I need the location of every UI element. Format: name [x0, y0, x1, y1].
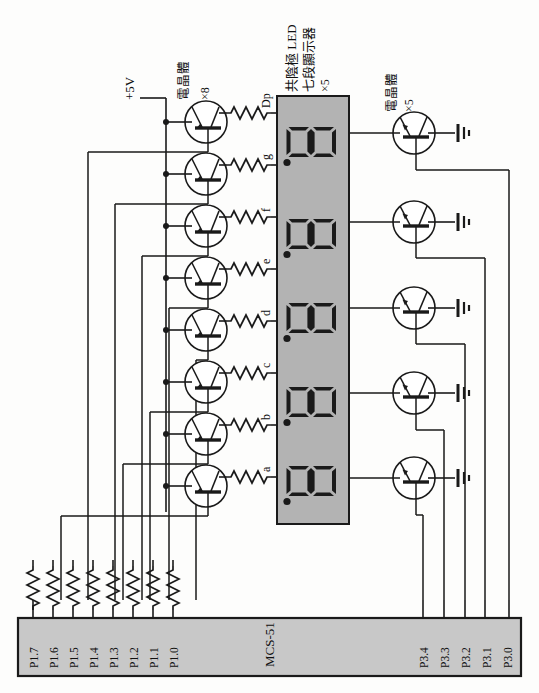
mcu-pin-label: P3.3 — [439, 647, 451, 668]
schematic-canvas: Dp g f e d c b a — [0, 0, 539, 693]
mcu-pin-label: P1.3 — [108, 647, 120, 668]
mcu-pin-label: P3.2 — [460, 647, 472, 668]
mcu-pin-label: P1.1 — [148, 647, 160, 668]
segment-transistor-count-label: ×8 — [198, 87, 212, 100]
circuit-svg: Dp g f e d c b a — [0, 0, 539, 693]
mcu-pin-label: P3.1 — [481, 647, 493, 668]
mcu-pin-label: P1.2 — [128, 647, 140, 668]
segment-pin-labels: Dp g f e d c b a — [259, 93, 273, 472]
port3-routing — [423, 600, 509, 618]
segment-pin-label: g — [259, 154, 273, 160]
digit-driver-stage — [349, 112, 509, 600]
mcu-pin-label: P3.4 — [418, 647, 430, 668]
segment-pin-label: a — [259, 466, 273, 472]
mcu-pin-label: P1.6 — [48, 647, 60, 668]
vcc-label: +5V — [122, 76, 137, 100]
display-label-line2: 七段顯示器 — [301, 27, 316, 92]
display-label-line3: ×5 — [318, 79, 332, 92]
mcu-pin-label: P1.0 — [168, 647, 180, 668]
segment-pin-label: b — [259, 414, 273, 420]
segment-pin-label: d — [259, 310, 273, 316]
segment-pin-label: c — [259, 363, 273, 368]
port1-resistor-bank — [27, 566, 179, 610]
segment-pin-label: Dp — [259, 93, 273, 108]
mcu-pin-label: P3.0 — [502, 647, 514, 668]
mcu-label: MCS-51 — [262, 622, 277, 667]
digit-transistor-group-label: 電晶體 — [385, 73, 399, 112]
mcu-pin-label: P1.4 — [88, 647, 100, 668]
segment-transistor-group-label: 電晶體 — [177, 61, 191, 100]
segment-driver-stage — [61, 101, 277, 600]
display-label-line1: 共陰極 LED — [284, 24, 299, 92]
mcu-pin-label: P1.5 — [68, 647, 80, 668]
mcu-pin-label: P1.7 — [28, 647, 40, 668]
segment-pin-label: f — [259, 208, 273, 212]
segment-pin-label: e — [259, 259, 273, 264]
digit-transistor-count-label: ×5 — [402, 99, 416, 112]
